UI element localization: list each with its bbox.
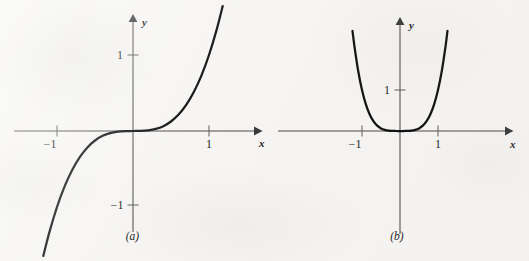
panel-b-caption: (b) [265,230,529,242]
y-axis-arrowhead [129,14,138,22]
x-axis-arrowhead [505,127,514,136]
y-axis-arrowhead [396,17,405,25]
x-tick-label-minus-1: −1 [44,137,57,151]
y-tick-label-plus-1: 1 [117,48,123,62]
x-tick-label-minus-1: −1 [349,137,362,151]
x-axis-arrowhead [254,127,263,136]
plot-b-canvas: x y −1 1 1 [265,0,529,261]
x-axis-label: x [509,138,516,150]
y-tick-label-plus-1: 1 [384,83,390,97]
y-axis-label: y [140,16,147,28]
figure-panel-a: x y −1 1 1 −1 (a) [0,0,265,261]
x-tick-label-plus-1: 1 [435,137,441,151]
x-tick-label-plus-1: 1 [206,137,212,151]
figure-panel-b: x y −1 1 1 (b) [265,0,529,261]
x-axis-label: x [258,137,265,149]
panel-a-caption: (a) [0,230,265,242]
plot-a-canvas: x y −1 1 1 −1 [0,0,265,261]
y-tick-label-minus-1: −1 [111,198,124,212]
y-axis-label: y [407,19,414,31]
